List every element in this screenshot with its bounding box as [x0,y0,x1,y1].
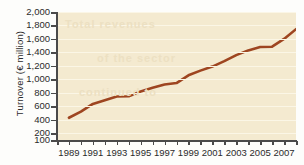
gridline [57,133,296,134]
x-axis-tick-label: 2007 [273,147,294,158]
y-axis-tick-label: 1,600 [2,33,50,44]
gridline [57,106,296,107]
plot-area: Total revenuesof the sectorcontinued to [57,12,296,140]
x-axis-tick-label: 2001 [202,147,223,158]
x-axis-tick [69,141,71,145]
gridline [57,93,296,94]
x-axis-tick [57,141,59,145]
x-axis-tick-label: 2005 [250,147,271,158]
x-axis-tick [117,141,119,145]
y-axis-tick-label: 1,200 [2,60,50,71]
x-axis-tick [248,141,250,145]
y-axis-tick-label: 100 [2,134,50,145]
y-axis-tick [51,93,56,95]
y-axis-tick [51,25,56,27]
y-axis-tick-label: 1,800 [2,19,50,30]
y-axis-tick-label: 1,000 [2,73,50,84]
turnover-line-chart: Turnover (€ million) 2,0001,8001,6001,40… [0,0,304,165]
gridline [57,12,296,13]
gridline [57,39,296,40]
y-axis-tick-label: 600 [2,100,50,111]
x-axis-tick [81,141,83,145]
x-axis-tick [153,141,155,145]
x-axis-tick-label: 1989 [58,147,79,158]
x-axis-tick-label: 1999 [178,147,199,158]
gridline [57,52,296,53]
x-axis-tick-label: 1991 [82,147,103,158]
y-axis-tick-label: 800 [2,87,50,98]
y-axis-tick-label: 400 [2,114,50,125]
y-axis-tick [51,79,56,81]
y-axis-line [56,12,58,141]
y-axis-tick [51,39,56,41]
x-axis-tick [129,141,131,145]
y-axis-tick [51,12,56,14]
turnover-series-line [57,12,296,140]
x-axis-tick [224,141,226,145]
x-axis-tick [260,141,262,145]
y-axis-tick [51,133,56,135]
y-axis-tick-label: 2,000 [2,6,50,17]
x-axis-tick [177,141,179,145]
y-axis-tick-labels: 2,0001,8001,6001,4001,2001,0008006004002… [0,0,50,165]
x-axis-tick [105,141,107,145]
y-axis-tick-label: 1,400 [2,46,50,57]
gridline [57,79,296,80]
x-axis-tick [188,141,190,145]
x-axis-tick-label: 1993 [106,147,127,158]
x-axis-tick [284,141,286,145]
gridline [57,66,296,67]
x-axis-tick [296,141,298,145]
x-axis-tick [212,141,214,145]
y-axis-tick [51,106,56,108]
x-axis-tick [236,141,238,145]
y-axis-tick [51,120,56,122]
x-axis-tick [272,141,274,145]
x-axis-tick-label: 1997 [154,147,175,158]
x-axis-tick [165,141,167,145]
y-axis-tick [51,66,56,68]
gridline [57,120,296,121]
y-axis-tick [51,140,56,142]
x-axis-tick [200,141,202,145]
y-axis-tick [51,52,56,54]
gridline [57,25,296,26]
x-axis-tick-label: 1995 [130,147,151,158]
x-axis-tick-label: 2003 [226,147,247,158]
x-axis-tick [141,141,143,145]
x-axis-tick [93,141,95,145]
